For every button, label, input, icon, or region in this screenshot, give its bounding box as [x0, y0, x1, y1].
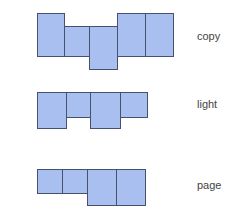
net-square	[116, 169, 146, 206]
net-square	[37, 169, 63, 194]
net-square	[120, 92, 148, 118]
net-square	[87, 169, 117, 206]
diagram-canvas: copy light page	[0, 0, 245, 217]
net-square	[90, 92, 121, 129]
net-square	[64, 26, 90, 57]
net-square	[62, 169, 88, 194]
label-copy: copy	[197, 30, 220, 42]
net-square	[37, 13, 65, 57]
net-square	[117, 13, 146, 57]
net-square	[89, 26, 118, 70]
net-square	[145, 13, 174, 57]
net-square	[37, 92, 67, 129]
label-light: light	[197, 98, 217, 110]
label-page: page	[197, 179, 221, 191]
net-square	[66, 92, 91, 118]
